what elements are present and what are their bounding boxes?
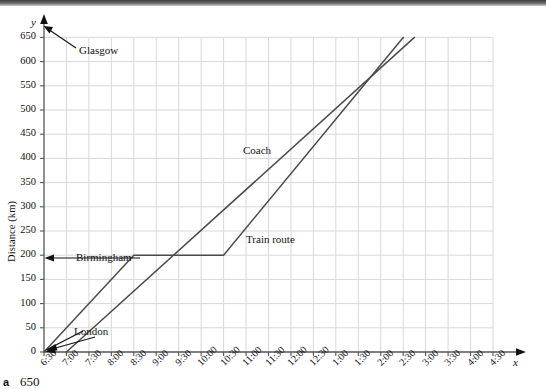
annotation-london: London bbox=[74, 325, 108, 337]
axis-ticks bbox=[40, 37, 493, 356]
glasgow-arrowhead bbox=[44, 26, 54, 33]
y-tick-label: 250 bbox=[2, 224, 36, 235]
distance-time-chart: y x Distance (km) 0501001502002503003504… bbox=[0, 0, 546, 389]
annotation-coach: Coach bbox=[243, 144, 271, 156]
y-tick-label: 0 bbox=[2, 345, 36, 356]
y-tick-label: 200 bbox=[2, 248, 36, 259]
glasgow-leader-line bbox=[48, 29, 76, 48]
x-axis-name: x bbox=[513, 356, 518, 368]
data-series bbox=[44, 37, 414, 352]
y-tick-label: 50 bbox=[2, 321, 36, 332]
y-tick-label: 500 bbox=[2, 103, 36, 114]
y-axis-name: y bbox=[31, 16, 36, 28]
y-tick-label: 400 bbox=[2, 151, 36, 162]
y-tick-label: 100 bbox=[2, 297, 36, 308]
y-tick-label: 300 bbox=[2, 200, 36, 211]
annotation-train-route: Train route bbox=[246, 233, 295, 245]
y-tick-label: 650 bbox=[2, 30, 36, 41]
y-tick-label: 450 bbox=[2, 127, 36, 138]
y-tick-label: 150 bbox=[2, 272, 36, 283]
y-tick-label: 550 bbox=[2, 79, 36, 90]
footer-marker: a bbox=[3, 376, 9, 388]
annotation-birmingham: Birmingham bbox=[76, 251, 132, 263]
footer-value: 650 bbox=[20, 374, 40, 389]
y-tick-label: 600 bbox=[2, 55, 36, 66]
y-axis-arrow bbox=[40, 14, 48, 24]
gridlines bbox=[44, 37, 493, 352]
y-tick-label: 350 bbox=[2, 176, 36, 187]
x-axis-arrow bbox=[516, 348, 526, 356]
annotation-glasgow: Glasgow bbox=[79, 44, 118, 56]
